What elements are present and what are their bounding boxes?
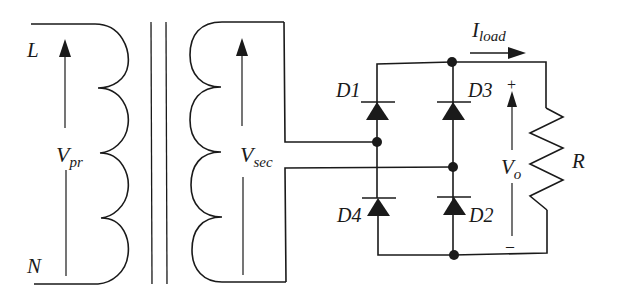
arrow-up-icon — [236, 38, 248, 56]
label-d3: D3 — [467, 79, 492, 101]
label-minus: – — [505, 237, 515, 254]
rectifier-circuit-diagram: L N Vpr Vsec D1 D3 D4 D2 Iload Vo R + – — [0, 0, 617, 296]
junction-left — [372, 137, 382, 147]
secondary-winding — [190, 22, 286, 282]
label-neutral: N — [26, 254, 42, 278]
arrow-up-icon — [59, 39, 71, 57]
label-d1: D1 — [335, 79, 360, 101]
junction-top — [447, 57, 457, 67]
arrow-up-icon — [507, 91, 517, 107]
label-line: L — [26, 38, 39, 62]
transformer-core — [151, 22, 167, 284]
diode-d1 — [361, 102, 395, 120]
label-resistor: R — [571, 149, 585, 173]
junction-right — [448, 162, 458, 172]
label-i-load: Iload — [471, 18, 506, 44]
bridge-wiring — [377, 62, 547, 255]
label-d2: D2 — [468, 204, 493, 226]
label-v-secondary: Vsec — [240, 142, 273, 170]
load-current-arrow — [470, 47, 526, 59]
junction-bottom — [449, 250, 459, 260]
junction-dots — [372, 57, 459, 260]
label-d4: D4 — [336, 204, 361, 226]
resistor-r — [530, 108, 563, 210]
secondary-leads — [284, 22, 453, 282]
arrow-right-icon — [508, 47, 526, 59]
diode-d3 — [437, 102, 471, 120]
label-v-primary: Vpr — [56, 142, 83, 170]
label-v-out: Vo — [501, 155, 522, 182]
diode-d4 — [362, 198, 396, 216]
diode-d2 — [437, 197, 471, 215]
label-plus: + — [507, 76, 516, 93]
